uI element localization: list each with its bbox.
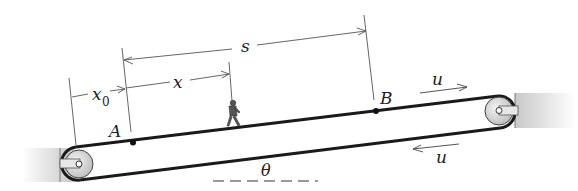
right-pulley: [485, 96, 518, 128]
point-b-marker: [373, 108, 379, 114]
conveyor-diagram: x 0 x s A B u u θ: [0, 0, 578, 191]
label-x0: x: [92, 84, 102, 104]
point-a-marker: [130, 140, 136, 146]
person-icon: [227, 100, 240, 126]
label-s: s: [241, 36, 250, 56]
left-pulley: [60, 147, 93, 180]
right-support: [515, 93, 575, 128]
dimension-lines: [72, 28, 366, 97]
velocity-arrows: [413, 84, 467, 152]
label-theta: θ: [261, 161, 271, 180]
label-b: B: [379, 88, 393, 108]
label-a: A: [107, 121, 121, 141]
label-x0-subscript: 0: [102, 95, 110, 109]
label-x: x: [173, 72, 183, 92]
conveyor-belt: [76, 96, 500, 180]
label-u-bottom: u: [436, 147, 447, 167]
label-u-top: u: [432, 69, 443, 89]
